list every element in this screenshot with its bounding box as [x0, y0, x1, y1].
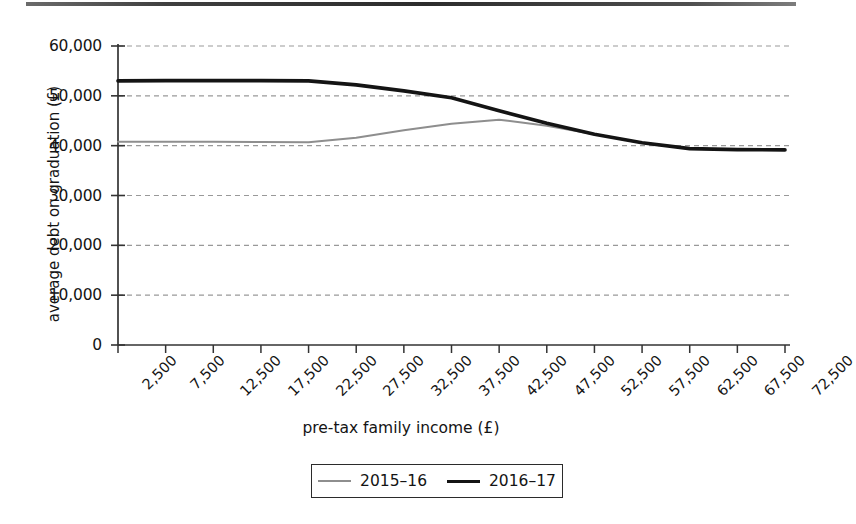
x-axis-title: pre-tax family income (£)	[0, 419, 802, 437]
gridlines-group	[118, 46, 790, 295]
legend-swatch-icon-2015-16	[318, 480, 351, 482]
legend-entry-2016-17[interactable]: 2016–17	[447, 472, 556, 490]
legend-label: 2016–17	[489, 472, 556, 490]
x-tick-label-72,500: 72,500	[809, 352, 856, 399]
legend-entry-2015-16[interactable]: 2015–16	[318, 472, 427, 490]
legend-label: 2015–16	[360, 472, 427, 490]
axis-lines-group	[118, 44, 790, 345]
chart-legend: 2015–162016–17	[311, 464, 563, 498]
x-ticks-group	[118, 345, 785, 353]
legend-swatch-icon-2016-17	[447, 480, 480, 483]
y-axis-title: average debt on graduation (£)	[45, 54, 63, 354]
series-line-2016-17	[118, 81, 785, 150]
y-tick-label-60,000: 60,000	[0, 37, 102, 55]
series-lines-group	[118, 81, 785, 150]
